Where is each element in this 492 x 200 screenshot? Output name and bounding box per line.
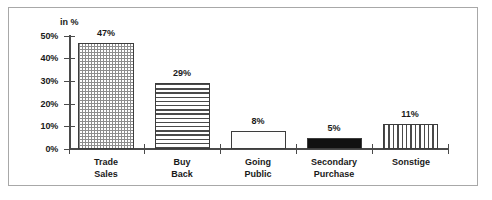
y-tick-30 [64,81,75,82]
bar-value-label-secondary-purchase: 5% [309,123,359,133]
x-category-label-going-public: Going Public [228,156,288,180]
x-tick-0 [69,144,70,154]
x-tick-2 [220,144,221,154]
y-tick-50 [64,36,75,37]
chart-figure: in % 0% 10% 20% 30% 40% 50% 47% 29% 8% [0,0,492,200]
y-axis-unit-label: in % [60,17,79,27]
bar-secondary-purchase [307,138,362,149]
y-axis-line [69,35,71,150]
y-tick-10 [64,126,75,127]
x-tick-1 [144,144,145,154]
y-tick-label-30: 30% [22,76,58,86]
bar-value-label-buy-back: 29% [157,68,207,78]
bar-value-label-sonstige: 11% [385,109,435,119]
y-tick-label-20: 20% [22,99,58,109]
bar-value-label-going-public: 8% [233,116,283,126]
bar-buy-back [155,83,210,149]
x-tick-5 [448,144,449,154]
y-tick-label-0: 0% [22,144,58,154]
y-tick-20 [64,104,75,105]
bar-sonstige [383,124,438,149]
bar-trade-sales [78,43,134,149]
x-category-label-secondary-purchase: Secondary Purchase [292,156,376,180]
bar-going-public [231,131,286,149]
x-category-label-sonstige: Sonstige [380,156,442,168]
x-tick-3 [296,144,297,154]
x-category-label-buy-back: Buy Back [152,156,212,180]
y-tick-40 [64,58,75,59]
bar-value-label-trade-sales: 47% [81,28,131,38]
bar-chart-plot-area: in % 0% 10% 20% 30% 40% 50% 47% 29% 8% [0,0,492,200]
x-category-label-trade-sales: Trade Sales [76,156,136,180]
y-tick-label-50: 50% [22,31,58,41]
y-tick-label-40: 40% [22,53,58,63]
y-tick-label-10: 10% [22,121,58,131]
x-tick-4 [372,144,373,154]
